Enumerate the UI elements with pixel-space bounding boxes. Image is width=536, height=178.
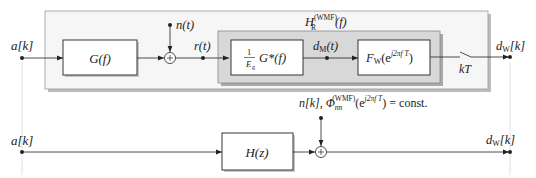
- g-filter-block: G(f): [63, 40, 139, 77]
- g-block-label: G(f): [89, 51, 111, 66]
- mf-frac-num: 1: [247, 47, 251, 57]
- dm-label: dM(t): [313, 39, 338, 54]
- matched-filter-block: 1 E g G*(f): [231, 40, 303, 75]
- sum-node-bottom: [316, 147, 327, 158]
- noise-label-top: n(t): [176, 18, 194, 32]
- output-node-top: [508, 55, 512, 59]
- h-block-label: H(z): [244, 145, 268, 160]
- input-label-bottom: a[k]: [11, 133, 33, 148]
- mf-frac-den: E: [245, 59, 252, 69]
- r-node: [201, 56, 205, 60]
- input-label-top: a[k]: [11, 38, 33, 53]
- block-diagram: a[k] G(f) n(t) r(t) 1 E g G*(f) dM(t) FW…: [0, 0, 536, 178]
- sum-node-top: [165, 53, 176, 64]
- dm-node: [325, 56, 329, 60]
- output-label-top: dW[k]: [496, 39, 525, 54]
- h-equivalent-block: H(z): [222, 133, 295, 172]
- r-label: r(t): [194, 39, 211, 53]
- sampler-label: kT: [459, 62, 472, 76]
- output-node-bottom: [508, 150, 512, 154]
- fw-filter-block: FW(ej2πf T): [358, 40, 430, 75]
- mf-frac-den-sub: g: [252, 64, 255, 70]
- noise-label-bottom: n[k], Φnn(WMF)(ej2πf T) = const.: [299, 94, 427, 112]
- mf-rest: G*(f): [259, 51, 286, 65]
- output-label-bottom: dW[k]: [486, 133, 515, 148]
